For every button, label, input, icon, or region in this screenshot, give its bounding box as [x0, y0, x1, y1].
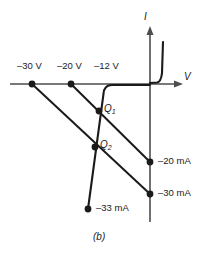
label-q2-subscript: 2: [108, 144, 112, 151]
forward-conduction-curve: [150, 42, 163, 83]
dot-q1: [96, 108, 103, 115]
figure-caption: (b): [93, 232, 105, 242]
label-q2: Q2: [100, 140, 112, 153]
label-axis-v: V: [184, 72, 191, 82]
dot-i-minus-20: [147, 159, 154, 166]
load-line-30v: [32, 84, 150, 194]
zener-diode-characteristic-figure: –30 V –20 V –12 V I V Q1 Q2 –20 mA –30 m…: [0, 0, 205, 253]
figure-svg: [0, 0, 205, 253]
dot-i-minus-30: [147, 191, 154, 198]
label-axis-i: I: [144, 12, 147, 22]
label-i-minus-33: –33 mA: [96, 203, 129, 213]
label-i-minus-30: –30 mA: [158, 188, 191, 198]
label-q1: Q1: [104, 104, 116, 117]
label-v-minus-20: –20 V: [57, 61, 82, 71]
dot-i-minus-33: [85, 206, 92, 213]
label-v-minus-30: –30 V: [17, 61, 42, 71]
label-i-minus-20: –20 mA: [158, 156, 191, 166]
label-v-minus-12: –12 V: [94, 61, 119, 71]
dot-v-minus-30: [29, 81, 36, 88]
label-q2-text: Q: [100, 139, 108, 150]
label-q1-subscript: 1: [112, 108, 116, 115]
dot-v-minus-20: [68, 81, 75, 88]
dot-q2: [92, 144, 99, 151]
label-q1-text: Q: [104, 103, 112, 114]
